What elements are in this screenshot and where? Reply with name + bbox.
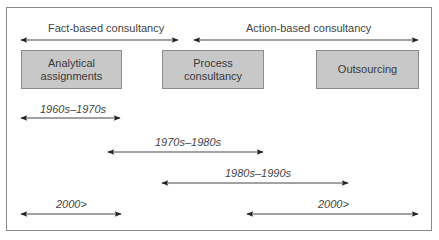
box-analytical-assignments: Analytical assignments <box>21 50 122 89</box>
period-label-2000-left: 2000> <box>56 198 87 210</box>
box-outsourcing: Outsourcing <box>316 50 419 89</box>
period-label-1960s-1970s: 1960s–1970s <box>40 103 106 115</box>
box-process-consultancy: Process consultancy <box>162 50 264 89</box>
box-label: Outsourcing <box>338 63 397 76</box>
period-label-2000-right: 2000> <box>318 198 349 210</box>
category-label-action-based: Action-based consultancy <box>246 22 371 34</box>
period-label-1970s-1980s: 1970s–1980s <box>155 136 221 148</box>
period-label-1980s-1990s: 1980s–1990s <box>225 167 291 179</box>
box-label: Process consultancy <box>178 57 248 83</box>
box-label: Analytical assignments <box>37 57 107 83</box>
category-label-fact-based: Fact-based consultancy <box>48 22 164 34</box>
